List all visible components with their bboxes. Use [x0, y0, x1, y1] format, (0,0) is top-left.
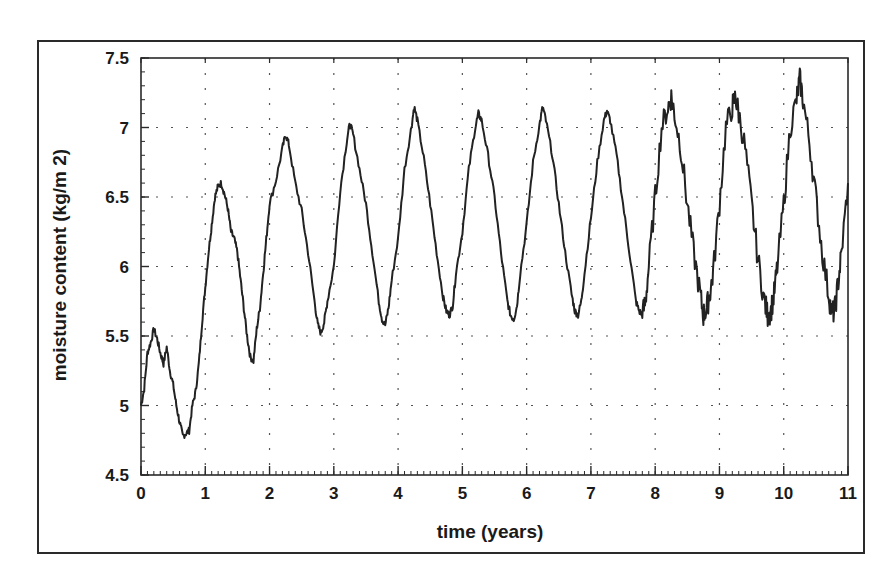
y-tick-label: 7: [120, 119, 129, 138]
grid-lines: [141, 58, 848, 475]
x-tick-label: 1: [201, 484, 210, 503]
y-axis-tick-labels: 4.555.566.577.5: [105, 49, 129, 485]
x-tick-label: 9: [715, 484, 724, 503]
y-axis-label: moisture content (kg/m 2): [49, 149, 71, 381]
x-tick-label: 6: [522, 484, 531, 503]
x-tick-label: 8: [650, 484, 659, 503]
x-tick-label: 7: [586, 484, 595, 503]
y-tick-label: 7.5: [105, 49, 129, 68]
x-tick-label: 11: [839, 484, 857, 503]
y-tick-label: 6.5: [105, 188, 129, 207]
x-tick-label: 0: [136, 484, 145, 503]
y-tick-label: 4.5: [105, 466, 129, 485]
x-axis-label: time (years): [437, 521, 544, 543]
y-tick-label: 5.5: [105, 327, 129, 346]
x-tick-label: 5: [458, 484, 467, 503]
line-chart: 4.555.566.577.5 01234567891011: [0, 0, 893, 582]
moisture-content-series: [141, 68, 848, 438]
x-tick-label: 4: [393, 484, 403, 503]
x-tick-label: 2: [265, 484, 274, 503]
y-tick-label: 5: [120, 397, 129, 416]
x-tick-label: 10: [774, 484, 793, 503]
y-tick-label: 6: [120, 258, 129, 277]
x-tick-label: 3: [329, 484, 338, 503]
x-axis-tick-labels: 01234567891011: [136, 484, 857, 503]
